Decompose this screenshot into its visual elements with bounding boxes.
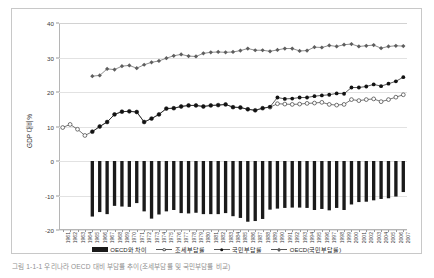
data-point	[253, 48, 257, 52]
legend-item[interactable]: OECD와 차이	[92, 245, 148, 254]
x-tick-mark	[152, 230, 153, 232]
data-point	[357, 99, 361, 103]
bar	[276, 161, 279, 209]
data-point	[260, 48, 264, 52]
data-point	[216, 103, 220, 107]
data-point	[379, 100, 383, 104]
data-point	[283, 102, 287, 106]
y-tick-label: 40	[47, 20, 54, 27]
x-tick-label: 1987	[257, 232, 263, 243]
data-point	[186, 54, 190, 58]
data-point	[194, 104, 198, 108]
x-tick-label: 1961	[65, 232, 71, 243]
data-point	[313, 94, 317, 98]
data-point	[327, 103, 331, 107]
chart-legend: OECD와 차이조세부담률국민부담률OECD(국민부담률)	[12, 245, 421, 254]
x-tick-mark	[181, 230, 182, 232]
chart-series-svg	[59, 23, 407, 230]
data-point	[320, 45, 324, 49]
x-tick-label: 1969	[124, 232, 130, 243]
data-point	[327, 43, 331, 47]
x-tick-mark	[307, 230, 308, 232]
x-tick-label: 1968	[117, 232, 123, 243]
x-tick-label: 1965	[94, 232, 100, 243]
x-tick-label: 1998	[339, 232, 345, 243]
data-point	[68, 123, 72, 127]
data-point	[387, 98, 391, 102]
bar	[335, 161, 338, 208]
data-point	[90, 74, 94, 78]
x-tick-mark	[359, 230, 360, 232]
legend-item[interactable]: 국민부담률	[214, 245, 263, 254]
data-point	[298, 49, 302, 53]
legend-item[interactable]: OECD(국민부담률)	[271, 245, 341, 254]
data-point	[120, 110, 124, 114]
data-point	[90, 130, 94, 134]
data-point	[283, 46, 287, 50]
x-tick-mark	[226, 230, 227, 232]
data-point	[320, 100, 324, 104]
bar	[379, 161, 382, 199]
data-point	[372, 43, 376, 47]
bar	[150, 161, 153, 219]
bar	[187, 161, 190, 213]
bar	[357, 161, 360, 202]
x-tick-mark	[270, 230, 271, 232]
data-point	[394, 44, 398, 48]
bar	[350, 161, 353, 204]
plot-area: 403020100-10-20	[59, 23, 407, 230]
x-tick-label: 1991	[287, 232, 293, 243]
data-point	[187, 104, 191, 108]
chart-figure: GDP 대비% 403020100-10-20 1961196219631964…	[11, 8, 422, 254]
series-line	[61, 93, 405, 138]
bar	[291, 161, 294, 208]
legend-line-swatch	[214, 246, 230, 253]
x-tick-label: 1963	[80, 232, 86, 243]
bar	[342, 161, 345, 210]
data-point	[372, 97, 376, 101]
data-point	[164, 107, 168, 111]
bar	[254, 161, 257, 221]
legend-item[interactable]: 조세부담률	[156, 245, 205, 254]
data-point	[157, 59, 161, 63]
data-point	[246, 107, 250, 111]
legend-label: OECD(국민부담률)	[290, 245, 341, 254]
bar	[387, 161, 390, 198]
data-point	[379, 46, 383, 50]
bar	[261, 161, 264, 219]
x-tick-label: 1977	[183, 232, 189, 243]
data-point	[401, 44, 405, 48]
x-tick-mark	[322, 230, 323, 232]
x-tick-label: 1988	[265, 232, 271, 243]
x-tick-mark	[396, 230, 397, 232]
data-point	[179, 52, 183, 56]
data-point	[231, 105, 235, 109]
data-point	[142, 120, 146, 124]
bar	[305, 161, 308, 208]
bar	[98, 161, 101, 212]
bar	[91, 161, 94, 217]
data-point	[401, 75, 405, 79]
bar	[231, 161, 234, 216]
bar	[372, 161, 375, 200]
x-tick-label: 1962	[72, 232, 78, 243]
x-tick-mark	[122, 230, 123, 232]
x-tick-mark	[374, 230, 375, 232]
data-point	[335, 103, 339, 107]
y-tick-label: -20	[45, 227, 54, 234]
bar	[209, 161, 212, 214]
data-point	[105, 120, 109, 124]
bar	[246, 161, 249, 222]
bar	[298, 161, 301, 208]
bar	[217, 161, 220, 214]
x-tick-label: 1995	[316, 232, 322, 243]
data-point	[335, 91, 339, 95]
series-line	[90, 75, 405, 133]
data-point	[349, 42, 353, 46]
data-point	[283, 97, 287, 101]
data-point	[246, 46, 250, 50]
data-point	[290, 46, 294, 50]
legend-line-swatch	[156, 246, 172, 253]
bar	[402, 161, 405, 192]
bar	[194, 161, 197, 213]
